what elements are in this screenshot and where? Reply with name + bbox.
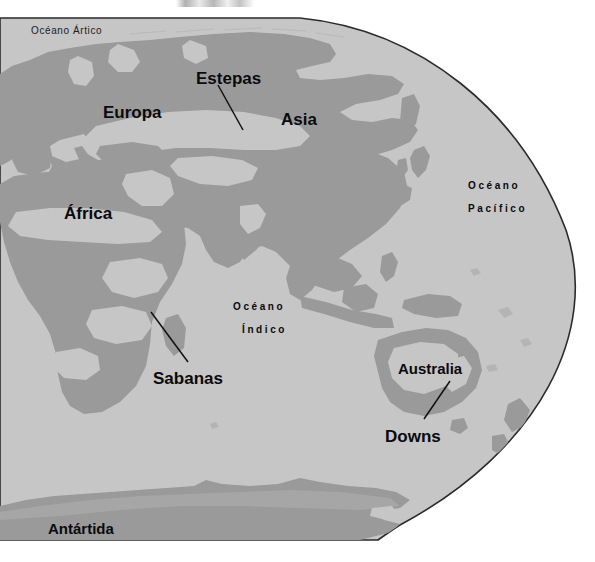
world-map-figure: Océano Ártico Estepas Europa Asia África… xyxy=(0,0,595,562)
savanna-belt-south xyxy=(86,306,152,344)
scan-artifact-smudge xyxy=(176,0,254,7)
world-map-graphic xyxy=(0,0,595,562)
